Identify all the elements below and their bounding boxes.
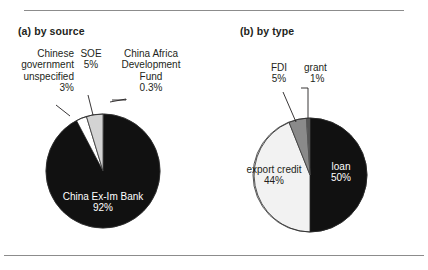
pie-b-leader-lines	[283, 88, 308, 122]
label-grant-value: 1%	[310, 73, 350, 84]
label-loan-line1: loan	[320, 161, 362, 172]
label-loan: loan 50%	[320, 161, 362, 184]
label-grant-line1: grant	[304, 62, 350, 73]
leader-line-grant	[301, 88, 308, 118]
label-export-credit: export credit 44%	[232, 164, 316, 187]
label-grant: grant 1%	[304, 62, 350, 85]
label-fdi-value: 5%	[258, 73, 300, 84]
figure-container: (a) by source Chinese government unspeci…	[0, 0, 428, 270]
pie-chart-b	[0, 0, 428, 270]
label-fdi-line1: FDI	[258, 62, 300, 73]
label-loan-value: 50%	[320, 172, 362, 183]
leader-line-fdi	[283, 92, 296, 122]
label-export-line1: export credit	[232, 164, 316, 175]
label-export-value: 44%	[232, 175, 316, 186]
label-fdi: FDI 5%	[258, 62, 300, 85]
